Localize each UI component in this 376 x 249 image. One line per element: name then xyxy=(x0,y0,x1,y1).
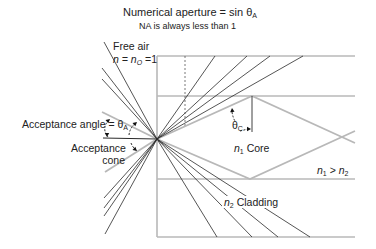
label-free-air: Free air xyxy=(113,40,149,52)
refracted-ray-top xyxy=(157,56,303,139)
arrowhead-icon xyxy=(105,133,109,137)
label-acceptance-angle: Acceptance angle = θA xyxy=(22,118,128,130)
refracted-ray-bottom xyxy=(157,139,217,237)
label-cladding: n2 Cladding xyxy=(222,196,280,208)
label-refractive-index-air: n = nO =1 xyxy=(113,53,157,65)
incoming-axis-ray xyxy=(103,138,157,139)
label-acceptance-cone: Acceptance cone xyxy=(71,142,125,166)
title-numerical-aperture: Numerical aperture = sin θA xyxy=(123,6,257,18)
refracted-ray-top xyxy=(157,56,270,139)
arrowhead-icon xyxy=(133,122,137,126)
label-core: n1 Core xyxy=(234,142,269,154)
guided-ray-upper xyxy=(157,96,355,143)
label-index-relation: n1 > n2 xyxy=(317,164,348,176)
title-note: NA is always less than 1 xyxy=(139,20,236,32)
label-critical-angle: θC xyxy=(232,119,243,131)
arrowhead-icon xyxy=(247,127,251,131)
arrowhead-icon xyxy=(230,108,234,112)
